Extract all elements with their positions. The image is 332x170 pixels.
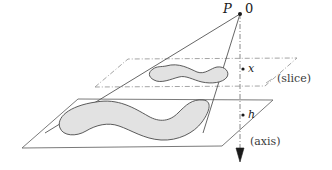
diagram-svg xyxy=(0,0,332,170)
apex-label-p: P xyxy=(223,2,232,15)
figure-canvas: P 0 x h (slice) (axis) xyxy=(0,0,332,170)
apex-point-dot xyxy=(238,12,242,16)
slice-axis-dot xyxy=(241,67,244,70)
axis-label: (axis) xyxy=(250,136,281,147)
slice-height-label: x xyxy=(248,63,254,74)
base-height-label: h xyxy=(248,109,255,120)
base-axis-dot xyxy=(241,113,244,116)
slice-cross-section-blob xyxy=(149,65,228,83)
slice-label-leader xyxy=(266,79,272,83)
axis-arrowhead xyxy=(236,148,244,162)
apex-coordinate-label: 0 xyxy=(245,2,253,15)
base-region-blob xyxy=(59,100,209,140)
slice-plane-label: (slice) xyxy=(277,73,311,84)
